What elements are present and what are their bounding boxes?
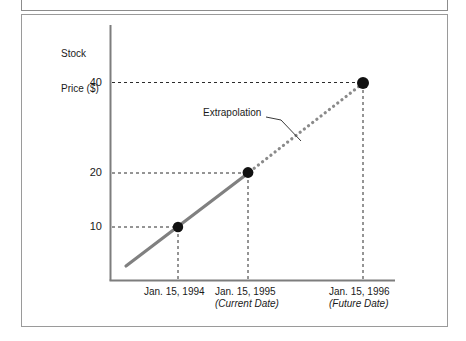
extrapolation-annotation-label: Extrapolation bbox=[203, 107, 261, 118]
series-extrapolation-line bbox=[250, 84, 362, 172]
x-tick-label-1994-main: Jan. 15, 1994 bbox=[144, 286, 205, 297]
y-tick-label-20: 20 bbox=[68, 166, 102, 178]
data-point-1995 bbox=[243, 167, 254, 178]
x-tick-label-1994: Jan. 15, 1994 bbox=[144, 286, 205, 298]
page-root: Stock Price ($) 40 20 10 Jan. 15, 1994 J… bbox=[0, 0, 466, 341]
x-tick-sublabel-1995: (Current Date) bbox=[215, 298, 279, 310]
x-tick-label-1995-main: Jan. 15, 1995 bbox=[215, 286, 276, 297]
y-tick-label-10: 10 bbox=[68, 220, 102, 232]
y-axis-title: Stock Price ($) bbox=[61, 25, 99, 117]
x-tick-label-1995: Jan. 15, 1995 (Current Date) bbox=[215, 286, 279, 310]
x-tick-label-1996-main: Jan. 15, 1996 bbox=[329, 286, 390, 297]
y-axis-title-line1: Stock bbox=[61, 48, 99, 60]
series-historical-trend-line bbox=[126, 173, 249, 267]
data-point-1996 bbox=[357, 77, 369, 89]
y-tick-label-40: 40 bbox=[68, 76, 102, 88]
x-tick-sublabel-1996: (Future Date) bbox=[329, 298, 390, 310]
extrapolation-leader-line bbox=[266, 117, 301, 141]
x-tick-label-1996: Jan. 15, 1996 (Future Date) bbox=[329, 286, 390, 310]
data-point-1994 bbox=[173, 222, 183, 232]
